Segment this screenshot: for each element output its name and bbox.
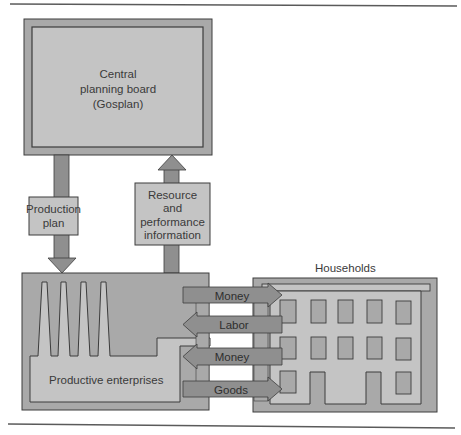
production-plan-line2: plan [43, 217, 65, 229]
flow-label: Money [215, 351, 250, 363]
production-plan-line1: Production [26, 203, 81, 215]
resource-info-box: Resource and performance information [135, 183, 210, 245]
resource-info-line3: performance [140, 216, 205, 228]
resource-info-line1: Resource [148, 189, 197, 201]
flow-money-to-households: Money [183, 283, 282, 307]
central-planning-diagram: Central planning board (Gosplan) Product… [0, 0, 461, 435]
flow-money-to-enterprises: Money [183, 344, 282, 369]
production-plan-box: Production plan [26, 197, 81, 235]
flow-label: Goods [214, 384, 248, 396]
resource-info-line4: information [144, 229, 201, 241]
flow-goods-to-households: Goods [183, 377, 282, 401]
arrow-down-icon [48, 258, 76, 273]
households-building [253, 278, 437, 412]
flow-label: Money [215, 290, 250, 302]
gosplan-label-line3: (Gosplan) [93, 98, 144, 110]
gosplan-box: Central planning board (Gosplan) [24, 19, 212, 155]
flow-label: Labor [219, 319, 249, 331]
top-rule [10, 4, 457, 6]
arrow-up-icon [158, 155, 186, 170]
enterprises-label: Productive enterprises [49, 374, 164, 386]
resource-info-line2: and [163, 202, 182, 214]
enterprises-block: Productive enterprises [22, 273, 210, 410]
flow-labor-to-enterprises: Labor [183, 312, 282, 337]
gosplan-label-line1: Central [99, 68, 136, 80]
gosplan-label-line2: planning board [80, 83, 156, 95]
households-label: Households [315, 262, 376, 274]
bottom-rule [8, 424, 455, 428]
